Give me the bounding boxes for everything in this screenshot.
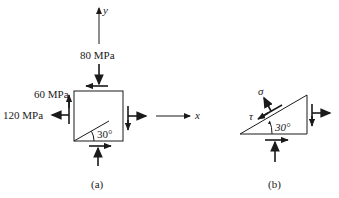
normal-stress-x-label: 120 MPa <box>3 109 43 121</box>
angle-label-b: 30° <box>274 121 291 133</box>
y-axis: y <box>99 4 108 44</box>
y-axis-label: y <box>102 4 108 16</box>
angle-label-a: 30° <box>97 128 112 140</box>
figure-b: 30° τ σ (b) <box>240 85 330 191</box>
normal-stress-y-label: 80 MPa <box>80 49 115 61</box>
figure-a: y 80 MPa 30° 60 MPa 120 MPa x (a) <box>3 4 200 191</box>
x-axis: x <box>156 109 200 121</box>
stress-element-diagram: y 80 MPa 30° 60 MPa 120 MPa x (a) <box>0 0 339 198</box>
normal-stress-arrow <box>264 98 271 111</box>
angle-arc-a <box>92 131 95 141</box>
normal-stress-symbol: σ <box>258 85 264 97</box>
shear-stress-symbol: τ <box>249 110 254 122</box>
shear-stress-label: 60 MPa <box>34 88 69 100</box>
x-axis-label: x <box>194 109 200 121</box>
caption-a: (a) <box>91 178 104 191</box>
caption-b: (b) <box>268 178 281 191</box>
